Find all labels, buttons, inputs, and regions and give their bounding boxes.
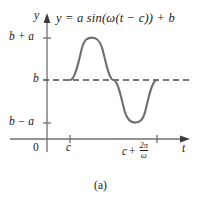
fraction-denominator: ω bbox=[140, 150, 148, 160]
y-axis bbox=[44, 13, 51, 152]
figure-caption: (a) bbox=[0, 179, 201, 191]
period-fraction: 2π ω bbox=[139, 141, 150, 160]
figure-sinusoid-graph: y = a sin(ω(t − c)) + b y t b + a b b − … bbox=[0, 0, 201, 199]
equation-annotation: y = a sin(ω(t − c)) + b bbox=[56, 12, 175, 25]
y-tick-label-b-plus-a: b + a bbox=[9, 31, 34, 43]
y-axis-label: y bbox=[34, 10, 39, 22]
y-tick-label-b: b bbox=[33, 73, 39, 85]
t-axis-label: t bbox=[182, 143, 185, 155]
fraction-numerator: 2π bbox=[139, 141, 150, 150]
x-tick-label-c: c bbox=[66, 142, 71, 154]
y-tick-label-b-minus-a: b − a bbox=[9, 116, 34, 128]
x-tick-label-c-plus-period: c + 2π ω bbox=[122, 142, 149, 161]
x-tick-operator: + bbox=[127, 146, 138, 158]
origin-label: 0 bbox=[33, 142, 39, 154]
